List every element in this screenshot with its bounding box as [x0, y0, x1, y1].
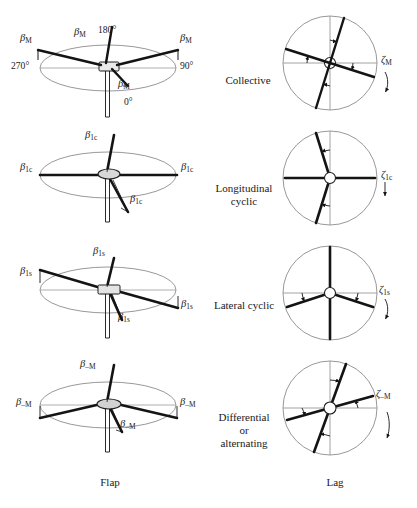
mode-line-1: Differential — [218, 411, 269, 423]
flap-label-betaNegM-top: β–M — [80, 358, 96, 371]
lag-blade-top-lagged — [316, 133, 330, 178]
blade-270-up — [40, 270, 101, 288]
rotor-mast — [106, 290, 110, 338]
lag-blade-right-lagged — [330, 293, 373, 307]
lag-diagram-longitudinal — [283, 131, 385, 225]
lag-hub — [325, 288, 336, 299]
lag-hub — [324, 402, 336, 414]
flap-label-beta-m-left: βM — [20, 32, 32, 45]
mode-line-2: cyclic — [231, 195, 257, 207]
blade-90-down — [117, 291, 178, 308]
lag-diagram-collective — [283, 16, 388, 110]
flap-label-beta1c-bottom: β1c — [130, 193, 142, 206]
flap-label-beta1c-left: β1c — [20, 161, 32, 174]
flap-label-beta1s-left: β1s — [20, 265, 32, 278]
rotor-mast — [106, 175, 110, 222]
rotor-mast — [106, 405, 110, 452]
lag-diagram-lateral — [283, 246, 388, 340]
azimuth-label-90: 90° — [180, 61, 193, 71]
mode-line-2: or — [239, 424, 248, 436]
flap-diagram-longitudinal — [40, 135, 177, 222]
lag-blade-top-lead — [330, 364, 346, 408]
flap-diagram-differential — [40, 365, 177, 452]
lag-blade-bottom-lagged — [316, 178, 330, 223]
flap-label-betaNegM-bottom: β–M — [120, 418, 136, 431]
lag-hub — [325, 173, 336, 184]
flap-label-beta1s-right: β1s — [181, 298, 193, 311]
flap-label-beta-m-right: βM — [180, 32, 192, 45]
lag-direction-arrow — [385, 72, 388, 92]
mode-label-collective: Collective — [206, 74, 290, 87]
flap-label-beta1s-bottom: β1s — [118, 311, 130, 324]
mode-label-differential-alternating: Differential or alternating — [200, 411, 288, 449]
blade-270-down — [40, 404, 101, 418]
column-title-lag: Lag — [305, 476, 365, 488]
mode-label-longitudinal-cyclic: Longitudinal cyclic — [201, 182, 287, 208]
lag-blade-left-lagged — [287, 293, 330, 307]
rotor-hub — [97, 399, 121, 409]
flap-label-beta1c-right: β1c — [181, 161, 193, 174]
flap-label-beta-m-bottom: βM — [118, 78, 130, 91]
mode-line-1: Longitudinal — [216, 182, 273, 194]
mode-line-3: alternating — [220, 437, 267, 449]
lag-direction-arrow — [387, 412, 389, 438]
azimuth-label-270: 270° — [11, 61, 29, 71]
rotor-hub — [99, 62, 119, 71]
blade-90-down — [117, 404, 177, 418]
lag-diagram-differential — [283, 361, 389, 455]
azimuth-label-180: 180° — [98, 25, 116, 35]
flap-label-betaNegM-right: β–M — [180, 396, 196, 409]
flap-diagram-lateral — [40, 258, 178, 338]
flap-label-beta1c-top: β1c — [85, 129, 97, 142]
lag-label-zetaNegM: ζ–M — [376, 388, 391, 401]
mode-label-lateral-cyclic: Lateral cyclic — [196, 299, 292, 312]
lag-blade-left-lag — [287, 408, 330, 420]
lag-label-zeta1c: ζ1c — [381, 169, 392, 182]
azimuth-label-0: 0° — [124, 97, 133, 107]
flap-label-beta-m-top: βM — [74, 26, 86, 39]
lag-direction-arrow — [385, 299, 388, 319]
rotor-mast — [106, 66, 110, 117]
lag-blade-bottom-lead — [314, 408, 330, 452]
flap-label-betaNegM-left: β–M — [16, 396, 32, 409]
lag-blade-right-lag — [330, 396, 373, 408]
rotor-mode-figure: βM 180° βM 270° βM 90° βM 0° Collective … — [0, 0, 417, 508]
flap-label-beta1s-top: β1s — [93, 245, 105, 258]
column-title-flap: Flap — [80, 476, 140, 488]
flap-diagram-collective — [38, 27, 178, 117]
rotor-hub — [98, 169, 120, 179]
lag-label-zeta1s: ζ1s — [379, 284, 390, 297]
lag-label-zeta-m: ζM — [381, 54, 392, 67]
rotor-hub — [98, 285, 120, 294]
